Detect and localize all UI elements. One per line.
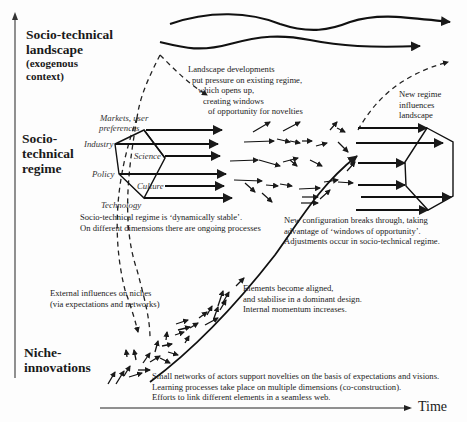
dimension-industry: Industry xyxy=(84,139,113,149)
level-label-niche: Niche- innovations xyxy=(24,345,91,375)
landscape-title-line-2: landscape xyxy=(26,42,83,57)
dimension-industry-label: Industry xyxy=(84,139,113,149)
landscape-subtitle-line-2: context) xyxy=(26,70,113,83)
annotation-line: landscape xyxy=(399,110,441,121)
dimension-markets: Markets, user xyxy=(100,113,148,123)
annotation-line: put pressure on existing regime, xyxy=(188,75,303,86)
regime-title-line-2: technical xyxy=(22,146,74,161)
annotation-external-influences: External influences on niches (via expec… xyxy=(50,288,160,309)
annotation-line: New regime xyxy=(399,89,441,100)
annotation-line: creating windows xyxy=(188,96,303,107)
annotation-small-networks: Small networks of actors support novelti… xyxy=(152,371,439,403)
annotation-line: advantage of ‘windows of opportunity’. xyxy=(284,226,440,237)
dimension-science-label: Science xyxy=(134,151,161,161)
annotation-aligned: Elements become aligned, and stabilise i… xyxy=(243,283,362,315)
annotation-line: and stabilise in a dominant design. xyxy=(243,294,362,305)
time-axis-arrow xyxy=(100,405,412,411)
annotation-line: Learning processes take place on multipl… xyxy=(152,382,439,393)
landscape-subtitle-line-1: (exogenous xyxy=(26,57,113,70)
dimension-markets-line-1: Markets, user xyxy=(100,113,148,123)
dimension-culture: Culture xyxy=(137,181,164,191)
dimension-technology: Technology xyxy=(101,200,141,210)
annotation-line: Internal momentum increases. xyxy=(243,304,362,315)
annotation-line: Elements become aligned, xyxy=(243,283,362,294)
new-regime-arrows xyxy=(356,128,451,210)
annotation-line: External influences on niches xyxy=(50,288,160,299)
annotation-line: (via expectations and networks) xyxy=(50,299,160,310)
dimension-preferences: preferences xyxy=(99,123,139,133)
vertical-axis-arrow xyxy=(12,12,18,378)
annotation-line: influences xyxy=(399,100,441,111)
dimension-policy-label: Policy xyxy=(92,169,114,179)
level-label-regime: Socio- technical regime xyxy=(22,131,74,176)
annotation-regime-stable: Socio-technical regime is ‘dynamically s… xyxy=(80,212,261,233)
annotation-line: Socio-technical regime is ‘dynamically s… xyxy=(80,212,261,223)
annotation-line: which opens up, xyxy=(188,85,303,96)
landscape-trend-arrows xyxy=(160,14,450,48)
annotation-new-regime-influences: New regime influences landscape xyxy=(399,89,441,121)
dimension-science: Science xyxy=(134,151,161,161)
multi-level-perspective-diagram: Socio-technical landscape (exogenous con… xyxy=(0,0,467,422)
annotation-landscape-pressure: Landscape developments put pressure on e… xyxy=(188,64,303,117)
dimension-culture-label: Culture xyxy=(137,181,164,191)
dimension-technology-label: Technology xyxy=(101,200,141,210)
dimension-policy: Policy xyxy=(92,169,114,179)
regime-title-line-1: Socio- xyxy=(22,131,57,146)
annotation-line: Small networks of actors support novelti… xyxy=(152,371,439,382)
annotation-line: Landscape developments xyxy=(188,64,303,75)
annotation-line: New configuration breaks through, taking xyxy=(284,215,440,226)
niche-title-line-2: innovations xyxy=(24,360,91,375)
regime-title-line-3: regime xyxy=(22,161,61,176)
landscape-title-line-1: Socio-technical xyxy=(26,27,113,42)
fragmenting-arrows xyxy=(230,122,355,203)
annotation-line: On different dimensions there are ongoin… xyxy=(80,223,261,234)
dimension-markets-line-2: preferences xyxy=(99,123,139,133)
annotation-line: Adjustments occur in socio-technical reg… xyxy=(284,236,440,247)
annotation-line: Efforts to link different elements in a … xyxy=(152,392,439,403)
niche-title-line-1: Niche- xyxy=(24,345,62,360)
annotation-line: of opportunity for novelties xyxy=(188,106,303,117)
time-axis-label: Time xyxy=(418,399,447,415)
annotation-breakthrough: New configuration breaks through, taking… xyxy=(284,215,440,247)
level-label-landscape: Socio-technical landscape (exogenous con… xyxy=(26,27,113,83)
